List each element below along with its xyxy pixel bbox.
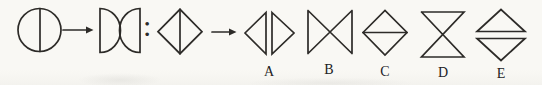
circle-with-diameter-icon: [18, 9, 61, 52]
diamond-vertical-line-icon: [158, 9, 202, 53]
option-label-e[interactable]: E: [493, 66, 509, 82]
arrow-right-icon: [63, 27, 94, 34]
option-label-c[interactable]: C: [377, 64, 393, 80]
option-label-b[interactable]: B: [321, 62, 337, 78]
colon-separator: :: [143, 11, 151, 41]
option-a-shape[interactable]: [245, 13, 294, 55]
option-e-shape[interactable]: [477, 10, 525, 61]
option-d-shape[interactable]: [422, 12, 465, 57]
puzzle-figure: : A B C D E: [0, 0, 542, 85]
option-label-a[interactable]: A: [261, 64, 277, 80]
option-c-shape[interactable]: [363, 11, 407, 56]
option-b-shape[interactable]: [308, 11, 352, 54]
arrow-right-icon: [212, 29, 237, 36]
mirrored-semicircles-icon: [100, 9, 140, 53]
option-label-d[interactable]: D: [435, 65, 451, 81]
